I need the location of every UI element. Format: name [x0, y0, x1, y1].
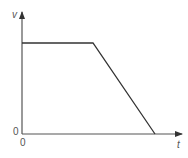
y-origin-label: 0: [13, 127, 19, 137]
velocity-time-graph: [0, 0, 188, 158]
x-origin-label: 0: [20, 138, 26, 148]
velocity-curve: [22, 43, 155, 134]
y-axis-label: v: [12, 10, 17, 20]
x-axis-label: t: [177, 140, 180, 150]
